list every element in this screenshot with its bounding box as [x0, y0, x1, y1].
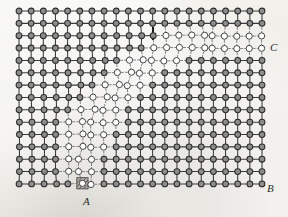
atom-layer — [16, 8, 265, 187]
point-label-a: A — [83, 196, 90, 207]
point-label-c: C — [270, 42, 277, 53]
figure-canvas: A B C — [0, 0, 288, 217]
point-label-b: B — [267, 183, 274, 194]
lattice-diagram — [0, 0, 288, 217]
